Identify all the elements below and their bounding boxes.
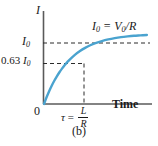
y-tick-i0-sub: 0 <box>26 40 30 49</box>
x-axis-title: Time <box>112 98 138 110</box>
asymptote-annotation: I0 = V0/R <box>92 20 136 32</box>
figure-rl-current-growth: I I0 0.63 I0 0 Time I0 = V0/R τ = L R (b… <box>0 0 158 146</box>
asymptote-over-r: /R <box>126 19 137 33</box>
figure-caption: (b) <box>0 125 158 137</box>
y-tick-label-i0: I0 <box>22 35 30 47</box>
y-tick-label-063-i0: 0.63 I0 <box>1 55 30 66</box>
current-growth-curve <box>44 35 147 104</box>
tau-symbol: τ <box>61 112 65 123</box>
asymptote-equals: = <box>100 19 114 33</box>
asymptote-v-sub: 0 <box>122 25 126 34</box>
asymptote-v-main: V <box>114 19 121 33</box>
tau-numerator: L <box>79 106 89 117</box>
origin-label: 0 <box>34 105 40 117</box>
asymptote-i-sub: 0 <box>96 25 100 34</box>
y-axis-title: I <box>36 4 40 16</box>
tau-equals: = <box>67 112 74 123</box>
y-tick-063-prefix: 0.63 <box>1 54 23 66</box>
y-tick-063-sub: 0 <box>27 59 31 68</box>
